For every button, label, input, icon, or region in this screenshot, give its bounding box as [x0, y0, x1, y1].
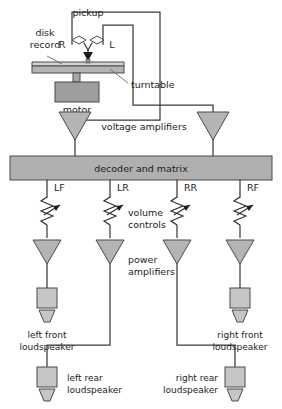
loudspeaker-right-rear: [225, 367, 245, 401]
loudspeaker-left-front: [37, 288, 57, 322]
right-front-label-line2: loudspeaker: [212, 342, 267, 352]
volume-control-lr[interactable]: [104, 197, 123, 238]
power-amplifier-rr: [163, 240, 191, 264]
volume-control-rf[interactable]: [234, 197, 253, 238]
volume-controls-label-line1: volume: [128, 207, 163, 218]
decoder-and-matrix-block: decoder and matrix: [10, 156, 272, 180]
channel-l-label: L: [109, 39, 115, 50]
power-amplifier-lf: [33, 240, 61, 264]
wiper-arrow-lf: [53, 205, 60, 211]
right-front-label-line1: right front: [217, 330, 263, 340]
voltage-amplifier-right: [197, 112, 229, 156]
volume-control-lf[interactable]: [41, 197, 60, 238]
right-rear-label-line2: loudspeaker: [163, 385, 218, 395]
power-amplifiers-label-line1: power: [128, 254, 157, 265]
disk-record-label-line1: disk: [35, 27, 55, 38]
left-rear-label-line1: left rear: [67, 373, 103, 383]
left-front-label-line1: left front: [28, 330, 67, 340]
pickup-label: pickup: [72, 7, 103, 18]
system-diagram: pickup R L disk record turntable motor: [0, 0, 282, 409]
diagram-canvas: pickup R L disk record turntable motor: [0, 0, 282, 409]
channel-rf: RF right front loudspeaker: [212, 180, 267, 352]
platter-top: [32, 62, 124, 66]
channel-rf-label: RF: [247, 182, 259, 193]
decoder-label: decoder and matrix: [94, 163, 188, 174]
voltage-amplifiers-label: voltage amplifiers: [101, 121, 187, 132]
loudspeaker-right-front: [230, 288, 250, 322]
volume-control-rr[interactable]: [171, 197, 190, 238]
wiper-arrow-lr: [116, 205, 123, 211]
power-amplifiers-label-line2: amplifiers: [128, 266, 175, 277]
right-rear-label-line1: right rear: [176, 373, 219, 383]
channel-lf-label: LF: [54, 182, 65, 193]
channel-lr-label: LR: [117, 182, 129, 193]
turntable-label: turntable: [131, 79, 175, 90]
wiper-arrow-rr: [183, 205, 190, 211]
pickup-assembly: [72, 36, 104, 61]
motor-shaft: [73, 73, 80, 82]
power-amplifier-rf: [226, 240, 254, 264]
disk-record-label-line2: record: [30, 39, 60, 50]
wiper-arrow-rf: [246, 205, 253, 211]
channel-lf: LF left front loudspeaker: [19, 180, 74, 352]
volume-controls-label-line2: controls: [128, 219, 166, 230]
loudspeaker-left-rear: [37, 367, 57, 401]
channel-rr-label: RR: [184, 182, 198, 193]
motor-body: [55, 82, 99, 102]
voltage-amplifier-left: [59, 112, 91, 156]
power-amplifier-lr: [96, 240, 124, 264]
spindle: [86, 59, 90, 63]
turntable-assembly: [32, 59, 124, 102]
left-rear-label-line2: loudspeaker: [67, 385, 122, 395]
